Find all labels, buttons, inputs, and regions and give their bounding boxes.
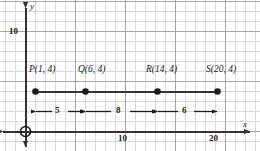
measure-label-8: 8: [116, 105, 121, 115]
point-s: [214, 88, 221, 95]
y-tick-label-10: 10: [9, 26, 18, 36]
point-label-r: R(14, 4): [146, 64, 177, 74]
coordinate-graph: P(1, 4) Q(6, 4) R(14, 4) S(20, 4) 5 8 6 …: [0, 0, 260, 151]
point-r: [154, 88, 161, 95]
point-p: [32, 88, 39, 95]
point-label-p: P(1, 4): [29, 64, 55, 74]
graph-canvas: [0, 0, 260, 151]
x-tick-label-20: 20: [209, 133, 218, 143]
x-tick-label-10: 10: [118, 133, 127, 143]
x-axis-label: x: [243, 119, 247, 129]
gridlines-minor-vertical: [6, 0, 256, 151]
measure-label-5: 5: [55, 105, 60, 115]
point-label-q: Q(6, 4): [78, 64, 105, 74]
measure-label-6: 6: [182, 105, 187, 115]
y-axis-label: y: [30, 1, 34, 11]
point-q: [82, 88, 89, 95]
point-label-s: S(20, 4): [206, 64, 236, 74]
gridlines-major: [0, 0, 260, 151]
